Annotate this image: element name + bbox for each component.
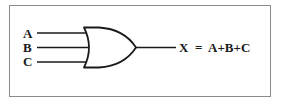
input-label-b: B	[23, 41, 32, 54]
logic-gate-figure: A B C X = A+B+C	[0, 0, 284, 109]
or-gate-body	[84, 28, 136, 68]
output-equation: X = A+B+C	[179, 41, 250, 54]
input-label-c: C	[23, 55, 32, 68]
input-label-a: A	[23, 27, 32, 40]
